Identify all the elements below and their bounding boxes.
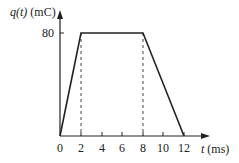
x-axis-label-unit: (ms) <box>204 142 229 156</box>
x-tick-label: 6 <box>119 142 125 154</box>
x-axis-arrow-icon <box>201 133 210 139</box>
x-tick-label: 8 <box>140 142 146 154</box>
y-axis-arrow-icon <box>57 10 63 19</box>
x-tick-label: 10 <box>157 142 169 154</box>
x-axis-label: t (ms) <box>201 143 229 155</box>
x-tick-label: 12 <box>178 142 190 154</box>
y-tick-label-80: 80 <box>42 27 54 39</box>
y-axis-label-arg: (t) <box>16 5 27 19</box>
plot-area <box>0 0 239 163</box>
series-q <box>60 33 184 136</box>
x-tick-label: 0 <box>57 142 63 154</box>
x-tick-label: 4 <box>99 142 105 154</box>
y-axis-label: q(t) (mC) <box>10 6 56 18</box>
x-tick-label: 2 <box>78 142 84 154</box>
y-axis-label-unit: (mC) <box>27 5 55 19</box>
